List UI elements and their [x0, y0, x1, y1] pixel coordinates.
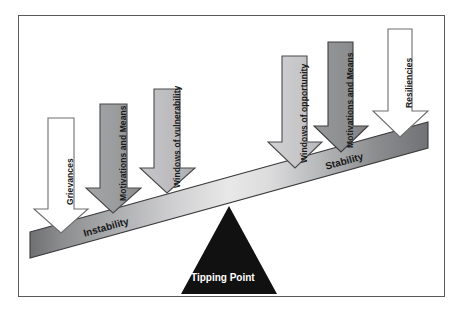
arrow-grievances: [34, 118, 88, 233]
diagram-stage: Grievances Motivations and Means Windows…: [0, 0, 461, 311]
arrow-motivations-and-means-right: [314, 42, 368, 152]
arrow-motivations-and-means-left: [86, 104, 141, 213]
arrow-windows-of-opportunity: [268, 56, 322, 168]
diagram-canvas: [0, 0, 461, 311]
arrow-windows-of-vulnerability: [140, 89, 195, 193]
arrow-resiliencies: [373, 29, 428, 137]
fulcrum-triangle: [181, 206, 277, 294]
